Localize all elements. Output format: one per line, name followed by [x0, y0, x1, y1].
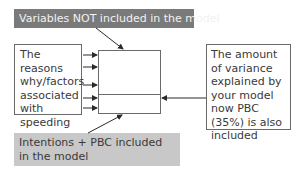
connector-arrows	[0, 0, 305, 174]
top-diagonal-arrow	[96, 28, 123, 49]
bottom-diagonal-arrow	[88, 115, 122, 133]
